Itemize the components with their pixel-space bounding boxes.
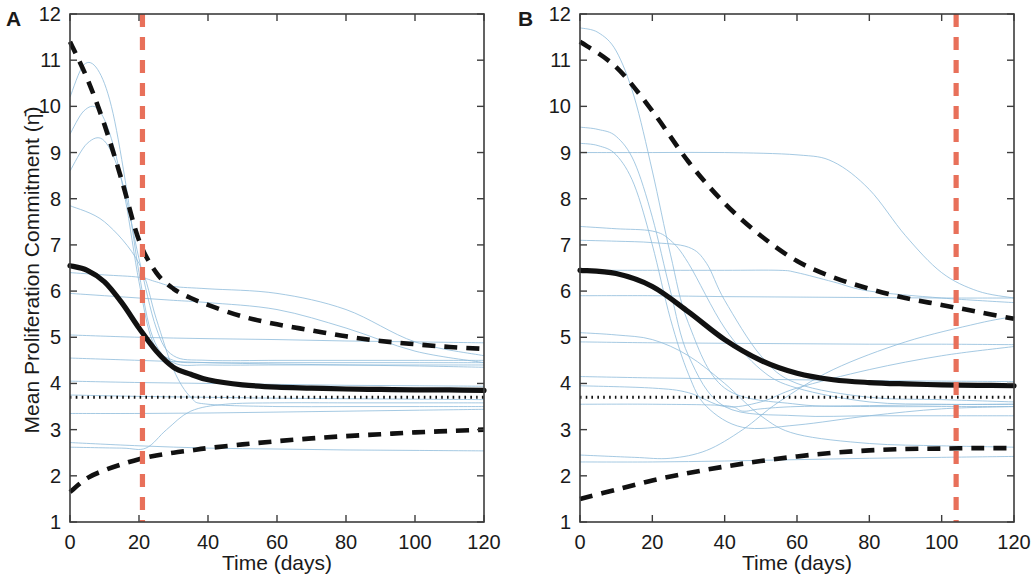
trajectory-line	[70, 138, 484, 361]
x-tick-label: 60	[266, 531, 288, 553]
x-tick-label: 80	[335, 531, 357, 553]
y-tick-label: 9	[50, 142, 61, 164]
trajectory-line	[580, 342, 1014, 345]
upper-confidence-line	[70, 42, 484, 349]
x-tick-label: 20	[641, 531, 663, 553]
trajectory-line	[580, 152, 1014, 298]
y-tick-label: 3	[50, 419, 61, 441]
y-tick-label: 3	[560, 419, 571, 441]
y-tick-label: 11	[550, 49, 571, 71]
panel-b: B Time (days) 12345678910111202040608010…	[516, 0, 1035, 584]
y-tick-label: 7	[560, 234, 571, 256]
trajectory-line	[70, 443, 484, 451]
mean-curve	[580, 270, 1014, 385]
x-tick-label: 0	[64, 531, 75, 553]
y-tick-label: 9	[560, 142, 571, 164]
trajectory-line	[70, 409, 484, 413]
trajectory-line	[580, 377, 1014, 382]
figure-container: A Mean Proliferation Commitment (η̄) Tim…	[0, 0, 1035, 584]
trajectory-line	[70, 395, 484, 400]
trajectory-line	[70, 335, 484, 343]
x-tick-label: 60	[786, 531, 808, 553]
y-tick-label: 10	[549, 95, 571, 117]
y-tick-label: 11	[40, 49, 61, 71]
y-tick-label: 2	[50, 465, 61, 487]
trajectory-line	[580, 296, 1014, 298]
x-tick-label: 120	[997, 531, 1030, 553]
y-tick-label: 2	[560, 465, 571, 487]
lower-confidence-line	[580, 448, 1014, 499]
y-tick-label: 1	[50, 511, 61, 533]
y-tick-label: 4	[560, 372, 571, 394]
trajectory-group	[70, 62, 484, 450]
y-tick-label: 6	[50, 280, 61, 302]
y-tick-label: 12	[39, 3, 61, 25]
trajectory-line	[70, 206, 484, 407]
x-tick-label: 20	[128, 531, 150, 553]
x-tick-label: 100	[398, 531, 431, 553]
x-tick-label: 120	[467, 531, 500, 553]
x-tick-label: 40	[714, 531, 736, 553]
y-tick-label: 12	[549, 3, 571, 25]
panel-a: A Mean Proliferation Commitment (η̄) Tim…	[0, 0, 516, 584]
trajectory-line	[70, 293, 484, 362]
x-tick-label: 0	[574, 531, 585, 553]
x-tick-label: 80	[858, 531, 880, 553]
x-tick-label: 100	[925, 531, 958, 553]
y-tick-label: 5	[50, 326, 61, 348]
x-tick-label: 40	[197, 531, 219, 553]
lower-confidence-line	[70, 430, 484, 492]
y-tick-label: 10	[39, 95, 61, 117]
trajectory-line	[580, 404, 1014, 411]
y-tick-label: 6	[560, 280, 571, 302]
panel-a-plot: 123456789101112020406080100120	[0, 0, 516, 584]
y-tick-label: 5	[560, 326, 571, 348]
y-tick-label: 7	[50, 234, 61, 256]
y-tick-label: 8	[560, 188, 571, 210]
y-tick-label: 8	[50, 188, 61, 210]
y-tick-label: 1	[560, 511, 571, 533]
panel-b-plot: 123456789101112020406080100120	[516, 0, 1035, 584]
mean-curve	[70, 266, 484, 391]
y-tick-label: 4	[50, 372, 61, 394]
